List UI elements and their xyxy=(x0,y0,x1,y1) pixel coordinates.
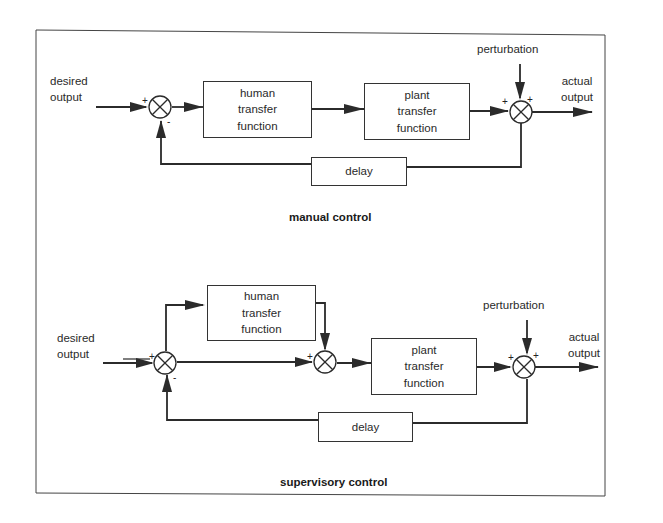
box-text: plant xyxy=(404,342,444,359)
manual-sum1-minus-sign: - xyxy=(167,117,170,127)
label-line: output xyxy=(568,345,600,361)
box-text: plant xyxy=(397,87,437,104)
label-line: output xyxy=(561,89,593,105)
box-text: human xyxy=(237,85,277,102)
label-line: actual xyxy=(568,329,600,345)
box-text: human xyxy=(241,288,281,305)
label-line: output xyxy=(57,346,95,362)
box-text: function xyxy=(397,120,437,137)
box-text: delay xyxy=(352,419,380,436)
box-text: function xyxy=(404,375,444,392)
supervisory-perturbation-label: perturbation xyxy=(483,297,544,313)
manual-sum1-plus-sign: + xyxy=(142,96,148,106)
supervisory-control-title: supervisory control xyxy=(280,476,387,488)
supervisory-sum1-plus-sign: + xyxy=(149,352,155,362)
manual-desired-output-label: desired output xyxy=(50,73,88,105)
manual-delay-box: delay xyxy=(311,157,407,186)
box-text: function xyxy=(237,118,277,135)
supervisory-desired-output-label: desired output xyxy=(57,330,95,362)
supervisory-human-transfer-function-box: human transfer function xyxy=(207,285,316,341)
label-line: desired xyxy=(50,73,88,89)
manual-plant-transfer-function-box: plant transfer function xyxy=(364,83,470,140)
box-text: transfer xyxy=(241,305,281,322)
label-line: desired xyxy=(57,330,95,346)
supervisory-summing-junctions xyxy=(154,351,535,378)
manual-sum2-plus-top: + xyxy=(527,95,533,105)
label-line: output xyxy=(50,89,88,105)
manual-sum2-plus-left: + xyxy=(502,97,508,107)
manual-actual-output-label: actual output xyxy=(561,73,593,105)
box-text: transfer xyxy=(397,103,437,120)
supervisory-sum3-plus-left: + xyxy=(508,353,514,363)
box-text: delay xyxy=(345,163,373,180)
supervisory-delay-box: delay xyxy=(318,412,413,442)
supervisory-actual-output-label: actual output xyxy=(568,329,600,361)
box-text: transfer xyxy=(237,101,277,118)
box-text: function xyxy=(241,321,281,338)
manual-control-title: manual control xyxy=(289,211,371,223)
supervisory-plant-transfer-function-box: plant transfer function xyxy=(371,338,477,395)
manual-perturbation-label: perturbation xyxy=(477,41,538,57)
manual-human-transfer-function-box: human transfer function xyxy=(203,81,312,138)
supervisory-sum3-plus-top: + xyxy=(533,351,539,361)
label-line: actual xyxy=(561,73,593,89)
supervisory-sum1-minus-sign: - xyxy=(173,373,176,383)
box-text: transfer xyxy=(404,358,444,375)
supervisory-sum2-plus-sign: + xyxy=(307,352,313,362)
